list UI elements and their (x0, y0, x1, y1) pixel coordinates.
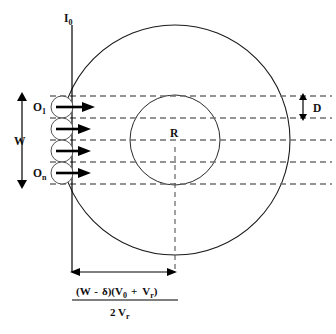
formula-numerator: (W-δ)(V0+Vr) (76, 285, 158, 300)
label-O1-sub: 1 (42, 107, 46, 116)
spacing-dimension-arrow (299, 93, 307, 121)
label-D: D (313, 102, 321, 114)
label-O1: O1 (33, 101, 46, 116)
label-O1-main: O (33, 101, 42, 113)
label-R: R (170, 127, 179, 139)
label-On: On (33, 167, 47, 182)
label-I0: I0 (64, 12, 72, 27)
label-W: W (14, 135, 26, 147)
formula-denominator-main: 2 V (110, 306, 126, 318)
formula-denominator-sub: r (126, 312, 130, 321)
label-On-main: O (33, 167, 42, 179)
diagram-svg: I0 O1 W On D R (W-δ)(V0+Vr) 2 Vr (0, 0, 336, 334)
label-I0-sub: 0 (68, 18, 72, 27)
diagram-canvas: I0 O1 W On D R (W-δ)(V0+Vr) 2 Vr (0, 0, 336, 334)
formula-denominator: 2 Vr (110, 306, 130, 321)
label-On-sub: n (42, 173, 47, 182)
bottom-dimension-arrow (70, 268, 177, 276)
